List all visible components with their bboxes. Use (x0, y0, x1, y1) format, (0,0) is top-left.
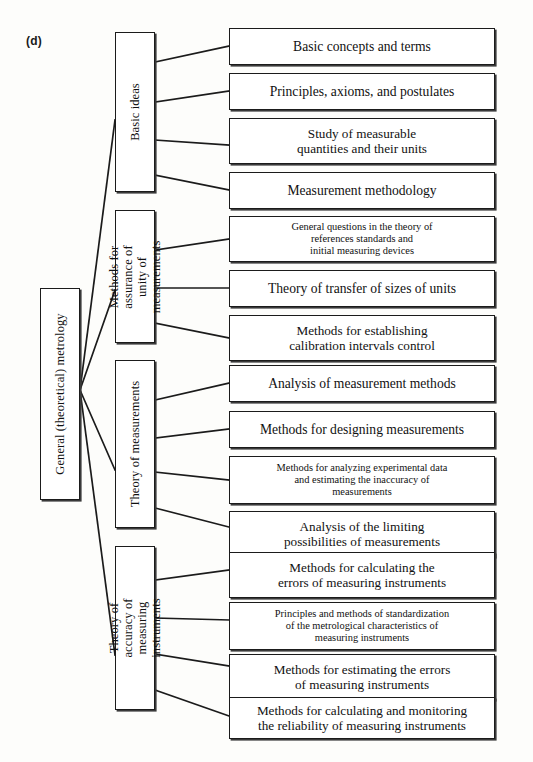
leaf-node-label: Theory of transfer of sizes of units (268, 281, 456, 297)
leaf-node-label: Principles and methods of standardizatio… (275, 608, 449, 645)
leaf-node[interactable]: Analysis of measurement methods (229, 365, 495, 402)
leaf-node[interactable]: Methods for establishing calibration int… (229, 315, 495, 361)
group-node-label: Methods for assurance of unity of measur… (107, 240, 163, 313)
group-node-basic-ideas[interactable]: Basic ideas (115, 32, 155, 192)
leaf-node-label: Study of measurable quantities and their… (297, 126, 427, 157)
leaf-node[interactable]: Principles, axioms, and postulates (229, 73, 495, 110)
leaf-node-label: Methods for analyzing experimental data … (277, 462, 448, 499)
leaf-node-label: Methods for calculating the errors of me… (278, 560, 446, 591)
root-node[interactable]: General (theoretical) metrology (40, 288, 80, 500)
leaf-node-label: Measurement methodology (287, 183, 436, 199)
group-node-label: Basic ideas (128, 83, 142, 141)
leaf-node[interactable]: Study of measurable quantities and their… (229, 118, 495, 164)
leaf-node-label: Methods for estimating the errors of mea… (274, 662, 451, 693)
root-node-label: General (theoretical) metrology (53, 313, 67, 474)
leaf-node[interactable]: Basic concepts and terms (229, 28, 495, 65)
leaf-node[interactable]: Methods for designing measurements (229, 411, 495, 448)
leaf-node[interactable]: Methods for calculating and monitoring t… (229, 697, 495, 739)
leaf-node-label: Principles, axioms, and postulates (270, 84, 455, 100)
leaf-node[interactable]: Theory of transfer of sizes of units (229, 270, 495, 307)
figure-label: (d) (26, 34, 42, 48)
leaf-node[interactable]: Methods for estimating the errors of mea… (229, 654, 495, 700)
leaf-node-label: Methods for designing measurements (260, 422, 464, 438)
figure-canvas: (d) General (theoretical) metrology Basi… (0, 0, 533, 762)
leaf-node[interactable]: Methods for calculating the errors of me… (229, 552, 495, 598)
leaf-node[interactable]: General questions in the theory of refer… (229, 216, 495, 262)
leaf-node-label: Analysis of measurement methods (268, 376, 456, 392)
leaf-node-label: Basic concepts and terms (293, 39, 431, 55)
leaf-node-label: Methods for establishing calibration int… (289, 323, 435, 354)
group-node-label: Theory of measurements (128, 381, 142, 507)
group-node-methods-assurance-unity[interactable]: Methods for assurance of unity of measur… (115, 210, 155, 343)
leaf-node[interactable]: Measurement methodology (229, 172, 495, 209)
leaf-node-label: General questions in the theory of refer… (291, 221, 432, 258)
leaf-node-label: Methods for calculating and monitoring t… (257, 703, 467, 734)
leaf-node-label: Analysis of the limiting possibilities o… (284, 519, 440, 550)
group-node-theory-of-accuracy[interactable]: Theory of accuracy of measuring instrume… (115, 546, 155, 710)
group-node-theory-of-measurements[interactable]: Theory of measurements (115, 360, 155, 528)
group-node-label: Theory of accuracy of measuring instrume… (107, 598, 163, 657)
leaf-node[interactable]: Methods for analyzing experimental data … (229, 456, 495, 504)
leaf-node[interactable]: Principles and methods of standardizatio… (229, 602, 495, 650)
leaf-node[interactable]: Analysis of the limiting possibilities o… (229, 511, 495, 557)
